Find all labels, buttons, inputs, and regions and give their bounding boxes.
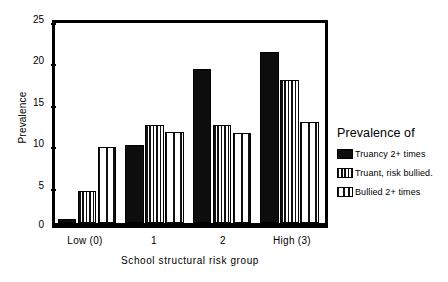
y-tick-label-20: 20 <box>20 56 44 66</box>
y-tick-label-25: 25 <box>20 15 44 25</box>
bar-chart-figure: Prevalence 25 20 15 10 5 0 Low (0) 1 2 H… <box>0 0 448 282</box>
bar <box>260 52 279 223</box>
legend-item-truant-risk-bullied: Truant, risk bullied. <box>337 168 448 178</box>
y-tick-label-10: 10 <box>20 139 44 149</box>
y-tick-label-0: 0 <box>20 220 44 230</box>
bar-group <box>190 23 258 223</box>
legend-label-bullied: Bullied 2+ times <box>355 187 420 197</box>
bar-group <box>55 23 123 223</box>
bar <box>58 219 77 223</box>
bars-layer <box>55 23 325 223</box>
legend-swatch-sparse-icon <box>337 187 353 197</box>
x-tick-label-1: 1 <box>121 235 187 246</box>
bar <box>78 191 97 223</box>
y-axis-title: Prevalence <box>17 63 28 173</box>
bar <box>233 133 252 223</box>
x-tick-label-3: High (3) <box>259 235 325 246</box>
legend-item-bullied: Bullied 2+ times <box>337 187 448 197</box>
x-tick-label-2: 2 <box>190 235 256 246</box>
y-tick-label-15: 15 <box>20 98 44 108</box>
bar <box>165 132 184 223</box>
x-tick-label-0: Low (0) <box>52 235 118 246</box>
bar-group <box>258 23 326 223</box>
x-axis-title: School structural risk group <box>52 255 328 266</box>
legend-label-truant-risk-bullied: Truant, risk bullied. <box>355 168 433 178</box>
legend-item-truancy: Truancy 2+ times <box>337 149 448 159</box>
bar <box>125 145 144 223</box>
bar <box>193 69 212 223</box>
bar-group <box>123 23 191 223</box>
legend-swatch-dense-icon <box>337 168 353 178</box>
bar <box>280 80 299 223</box>
bar <box>98 147 117 223</box>
bar <box>145 125 164 223</box>
plot-area <box>52 20 328 228</box>
y-tick-label-5: 5 <box>20 181 44 191</box>
legend-title: Prevalence of <box>337 126 448 140</box>
legend-label-truancy: Truancy 2+ times <box>355 149 426 159</box>
bar <box>213 125 232 223</box>
legend-swatch-solid-icon <box>337 149 353 159</box>
bar <box>300 122 319 223</box>
legend: Prevalence of Truancy 2+ times Truant, r… <box>337 126 448 206</box>
